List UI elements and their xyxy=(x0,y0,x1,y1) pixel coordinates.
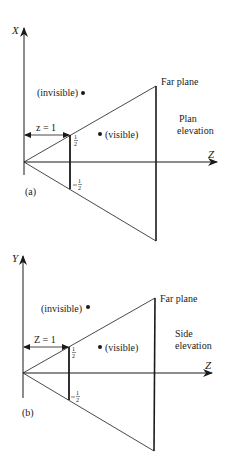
near-top-value: 1 2 xyxy=(72,346,76,359)
view-frustum-diagram: X Z z = 1 1 2 1 2 Far plane Plan elevat xyxy=(0,0,232,474)
svg-text:2: 2 xyxy=(74,141,77,147)
frustum-bottom-edge xyxy=(24,162,156,241)
panel-b-tag: (b) xyxy=(22,407,34,419)
svg-text:2: 2 xyxy=(78,185,81,191)
z-axis-label: Z xyxy=(205,359,212,371)
near-bottom-value: 1 2 xyxy=(71,390,80,403)
visible-point xyxy=(98,345,102,349)
svg-text:2: 2 xyxy=(72,353,75,359)
view-label-line1: Plan xyxy=(179,113,197,124)
svg-text:1: 1 xyxy=(78,178,81,184)
visible-point-label: (visible) xyxy=(105,129,138,141)
view-label-line1: Side xyxy=(175,328,193,339)
far-plane-label: Far plane xyxy=(160,293,198,304)
invisible-point-label: (invisible) xyxy=(37,87,78,99)
visible-point-label: (visible) xyxy=(105,342,138,354)
near-bottom-value: 1 2 xyxy=(73,178,82,191)
svg-text:1: 1 xyxy=(76,390,79,396)
near-top-value: 1 2 xyxy=(74,134,78,147)
y-axis-label: Y xyxy=(12,252,20,264)
panel-b-side-elevation: Y Z Z = 1 1 2 1 2 Far plane Side elevat xyxy=(12,252,212,451)
far-plane-label: Far plane xyxy=(161,76,199,87)
near-distance-label: z = 1 xyxy=(36,122,56,133)
near-distance-label: Z = 1 xyxy=(34,334,56,345)
panel-a-tag: (a) xyxy=(25,186,36,198)
panel-a-plan-elevation: X Z z = 1 1 2 1 2 Far plane Plan elevat xyxy=(11,24,217,241)
visible-point xyxy=(98,132,102,136)
svg-text:1: 1 xyxy=(74,134,77,140)
x-axis-label: X xyxy=(11,24,20,36)
far-plane xyxy=(154,298,155,451)
z-axis-label: Z xyxy=(208,148,215,160)
invisible-point-label: (invisible) xyxy=(41,303,82,315)
view-label-line2: elevation xyxy=(175,340,212,351)
invisible-point xyxy=(81,91,85,95)
frustum-bottom-edge xyxy=(23,373,154,451)
view-label-line2: elevation xyxy=(177,125,214,136)
invisible-point xyxy=(86,305,90,309)
svg-text:1: 1 xyxy=(72,346,75,352)
svg-text:2: 2 xyxy=(76,397,79,403)
